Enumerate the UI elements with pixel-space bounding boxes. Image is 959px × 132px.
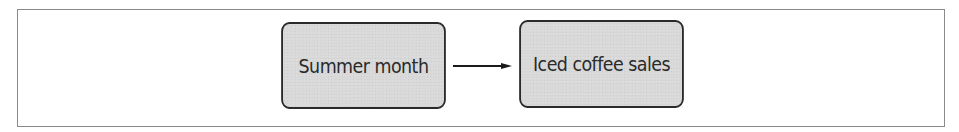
node-summer-month: Summer month: [281, 22, 446, 109]
arrow-right-icon: [453, 63, 512, 69]
node-label: Summer month: [299, 55, 429, 77]
arrow-summer-to-sales: [453, 63, 512, 69]
node-iced-coffee-sales: Iced coffee sales: [519, 20, 684, 108]
node-label: Iced coffee sales: [533, 53, 670, 75]
